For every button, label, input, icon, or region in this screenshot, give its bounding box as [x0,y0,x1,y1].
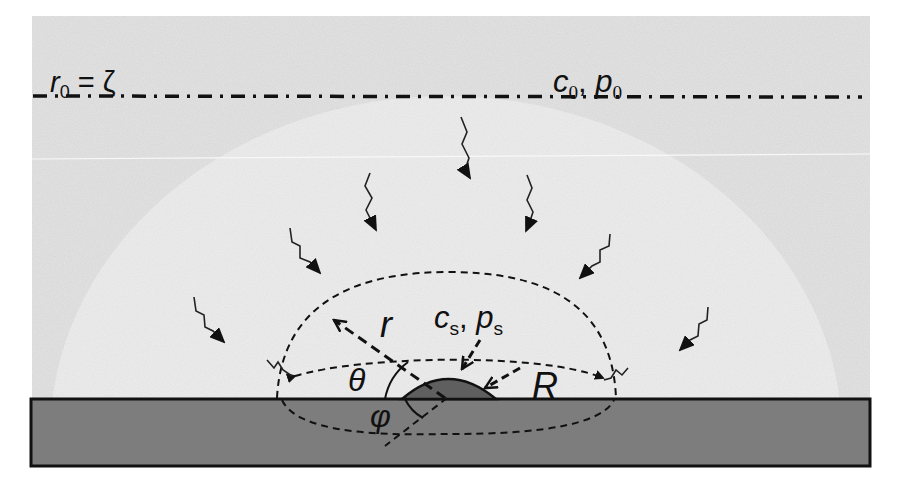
equals-zeta: = ζ [70,66,116,98]
subscript-c0: 0 [569,82,579,103]
symbol-c: c [553,64,569,99]
symbol-ps: p [476,300,493,335]
far-field-label: c0, p0 [553,66,622,97]
phi-label: φ [370,400,391,432]
substrate [31,399,870,466]
subscript-p0: 0 [613,82,623,103]
symbol-r: r [50,66,60,98]
boundary-label: r0 = ζ [50,68,116,97]
separator: , [459,300,476,335]
subscript-s: s [450,318,460,339]
subscript-s: s [494,318,504,339]
theta-label: θ [348,364,365,396]
separator: , [578,64,595,99]
diagram-canvas [0,0,899,497]
surface-label: cs, ps [434,302,503,333]
subscript-0: 0 [60,82,70,102]
radius-R-label: R [532,368,558,404]
symbol-p: p [595,64,612,99]
diagram-stage: r0 = ζ c0, p0 cs, ps r R θ φ [0,0,899,497]
radius-r-label: r [380,307,392,343]
symbol-cs: c [434,300,450,335]
